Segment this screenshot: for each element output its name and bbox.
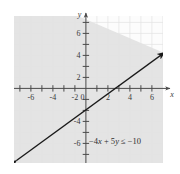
y-tick-label-4: 4 bbox=[77, 51, 81, 60]
x-tick-label-neg2: -2 bbox=[72, 93, 79, 102]
ineq-part-plus: + 5 bbox=[102, 136, 115, 146]
coordinate-plane: -6 -4 -2 2 4 6 0 6 4 2 -4 -6 x y −4x + 5… bbox=[0, 0, 180, 174]
x-tick-label-4: 4 bbox=[128, 93, 132, 102]
origin-label-group: 0 bbox=[80, 93, 84, 102]
y-axis-label: y bbox=[77, 10, 82, 19]
y-tick-label-6: 6 bbox=[77, 29, 81, 38]
ineq-part-rhs: ≤ −10 bbox=[119, 136, 141, 146]
y-tick-label-2: 2 bbox=[77, 73, 81, 82]
x-tick-label-6: 6 bbox=[150, 93, 154, 102]
inequality-label: −4x + 5y ≤ −10 bbox=[89, 136, 141, 146]
y-tick-label-neg6: -6 bbox=[74, 139, 81, 148]
x-axis-label: x bbox=[169, 90, 174, 99]
x-tick-label-neg6: -6 bbox=[28, 93, 35, 102]
graph-figure: -6 -4 -2 2 4 6 0 6 4 2 -4 -6 x y −4x + 5… bbox=[0, 0, 180, 174]
x-tick-label-neg4: -4 bbox=[50, 93, 57, 102]
svg-text:−4x + 5y ≤ −10: −4x + 5y ≤ −10 bbox=[89, 136, 141, 146]
origin-label: 0 bbox=[80, 93, 84, 102]
